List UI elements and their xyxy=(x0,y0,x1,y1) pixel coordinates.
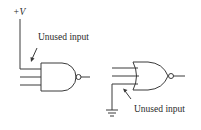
nand-unused-input-label: Unused input xyxy=(38,32,89,42)
ground-icon xyxy=(106,110,118,116)
nand-annotation-arrow xyxy=(32,48,37,59)
unused-inputs-diagram: +V Unused input Unused input xyxy=(0,0,201,130)
nor-unused-input-label: Unused input xyxy=(134,104,185,114)
supply-voltage-label: +V xyxy=(13,7,26,17)
nand-arrowhead-icon xyxy=(31,57,35,62)
nor-inversion-bubble xyxy=(169,74,174,79)
nand-gate-icon xyxy=(41,63,76,91)
nor-annotation-arrow xyxy=(125,91,131,99)
nand-inversion-bubble xyxy=(76,75,81,80)
